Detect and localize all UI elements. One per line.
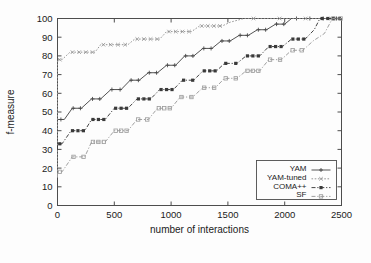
legend-label-yam-tuned: YAM-tuned xyxy=(267,173,306,182)
x-tick-label: 2000 xyxy=(274,209,295,220)
data-marker xyxy=(120,107,123,110)
y-tick-label: 0 xyxy=(47,200,52,211)
data-marker xyxy=(160,88,163,91)
chart-figure: 0500100015002000250001020304050607080901… xyxy=(0,0,371,263)
data-marker xyxy=(91,118,94,121)
data-marker xyxy=(148,97,151,100)
y-tick-label: 70 xyxy=(42,69,53,80)
y-tick-label: 30 xyxy=(42,144,53,155)
y-tick-label: 20 xyxy=(42,163,53,174)
y-tick-label: 40 xyxy=(42,125,53,136)
x-tick-label: 2500 xyxy=(331,209,352,220)
data-marker xyxy=(82,129,85,132)
data-marker xyxy=(137,97,140,100)
data-marker xyxy=(302,37,305,40)
y-tick-label: 100 xyxy=(37,13,53,24)
data-marker xyxy=(246,54,249,57)
x-tick-label: 500 xyxy=(106,209,122,220)
data-marker xyxy=(297,37,300,40)
legend-label-coma-: COMA++ xyxy=(273,182,307,191)
legend-label-sf: SF xyxy=(296,190,306,199)
data-marker xyxy=(274,45,277,48)
y-tick-label: 50 xyxy=(42,106,53,117)
data-marker xyxy=(320,17,323,20)
data-marker xyxy=(208,69,211,72)
data-marker xyxy=(191,79,194,82)
data-marker xyxy=(234,62,237,65)
legend-label-yam: YAM xyxy=(290,164,307,173)
data-marker xyxy=(142,97,145,100)
y-axis-label: f-measure xyxy=(5,89,16,134)
y-tick-label: 80 xyxy=(42,50,53,61)
series-coma- xyxy=(58,17,342,150)
data-marker xyxy=(58,142,61,145)
series-sf xyxy=(58,17,343,178)
x-tick-label: 1000 xyxy=(161,209,182,220)
data-marker xyxy=(291,37,294,40)
data-marker xyxy=(170,88,173,91)
data-marker xyxy=(224,62,227,65)
data-marker xyxy=(203,69,206,72)
data-marker xyxy=(251,54,254,57)
data-marker xyxy=(279,45,282,48)
data-marker xyxy=(326,17,329,20)
y-tick-label: 10 xyxy=(42,181,53,192)
y-tick-label: 90 xyxy=(42,32,53,43)
data-marker xyxy=(165,88,168,91)
data-marker xyxy=(102,118,105,121)
data-marker xyxy=(76,129,79,132)
data-marker xyxy=(97,118,100,121)
data-marker xyxy=(182,79,185,82)
x-tick-label: 0 xyxy=(55,209,60,220)
series-yam xyxy=(58,17,342,150)
data-marker xyxy=(125,107,128,110)
data-marker xyxy=(114,107,117,110)
chart-legend: YAMYAM-tunedCOMA++SF xyxy=(257,161,337,200)
chart-canvas: 0500100015002000250001020304050607080901… xyxy=(0,0,371,263)
y-tick-label: 60 xyxy=(42,88,53,99)
x-axis-label: number of interactions xyxy=(150,224,249,235)
data-marker xyxy=(257,54,260,57)
data-marker xyxy=(214,69,217,72)
x-tick-label: 1500 xyxy=(217,209,238,220)
data-marker xyxy=(319,186,322,189)
data-marker xyxy=(71,129,74,132)
data-marker xyxy=(269,45,272,48)
